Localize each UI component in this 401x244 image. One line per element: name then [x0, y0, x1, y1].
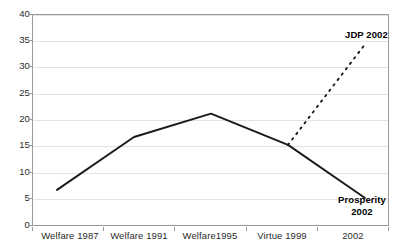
y-tick-label-20: 20: [4, 114, 30, 124]
gridline-15: [33, 146, 388, 147]
x-tick-label-2002: 2002: [305, 230, 401, 241]
y-tick-mark-40: [28, 14, 32, 15]
y-tick-label-35: 35: [4, 35, 30, 45]
y-tick-mark-10: [28, 172, 32, 173]
annotation-jdp-2002: JDP 2002: [345, 29, 388, 41]
y-tick-mark-5: [28, 198, 32, 199]
line-chart: 40 35 30 25 20 15 10 5 0 JDP 2002 Prospe…: [0, 0, 401, 244]
y-tick-mark-0: [28, 225, 32, 226]
y-axis: 40 35 30 25 20 15 10 5 0: [0, 0, 30, 244]
y-tick-mark-15: [28, 145, 32, 146]
y-tick-mark-20: [28, 119, 32, 120]
y-tick-label-15: 15: [4, 140, 30, 150]
x-axis: Welfare 1987 Welfare 1991 Welfare1995 Vi…: [32, 227, 389, 244]
y-tick-label-0: 0: [4, 220, 30, 230]
annotation-prosperity-line2: 2002: [330, 206, 394, 218]
annotation-prosperity-line1: Prosperity: [338, 194, 386, 205]
annotation-prosperity-2002: Prosperity 2002: [330, 194, 394, 218]
y-tick-mark-25: [28, 93, 32, 94]
gridline-10: [33, 173, 388, 174]
y-tick-mark-30: [28, 66, 32, 67]
y-tick-label-5: 5: [4, 193, 30, 203]
y-tick-label-25: 25: [4, 88, 30, 98]
gridline-30: [33, 67, 388, 68]
y-tick-mark-35: [28, 40, 32, 41]
gridline-25: [33, 94, 388, 95]
gridline-40: [33, 15, 388, 16]
y-tick-label-10: 10: [4, 167, 30, 177]
y-tick-label-30: 30: [4, 61, 30, 71]
y-tick-label-40: 40: [4, 9, 30, 19]
gridline-20: [33, 120, 388, 121]
gridline-35: [33, 41, 388, 42]
